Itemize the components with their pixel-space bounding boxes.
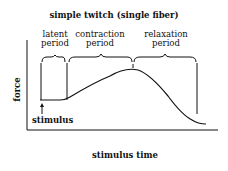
x-axis-label: stimulus time: [80, 151, 170, 160]
y-axis-label: force: [13, 75, 22, 105]
relaxation-brace: [134, 54, 196, 62]
contraction-brace: [69, 54, 132, 62]
diagram-graphics: [0, 0, 228, 171]
arrow-head-icon: [40, 103, 44, 107]
stimulus-label: stimulus: [32, 116, 73, 125]
latent-brace: [42, 55, 65, 62]
twitch-diagram: simple twitch (single fiber) latent peri…: [0, 0, 228, 171]
